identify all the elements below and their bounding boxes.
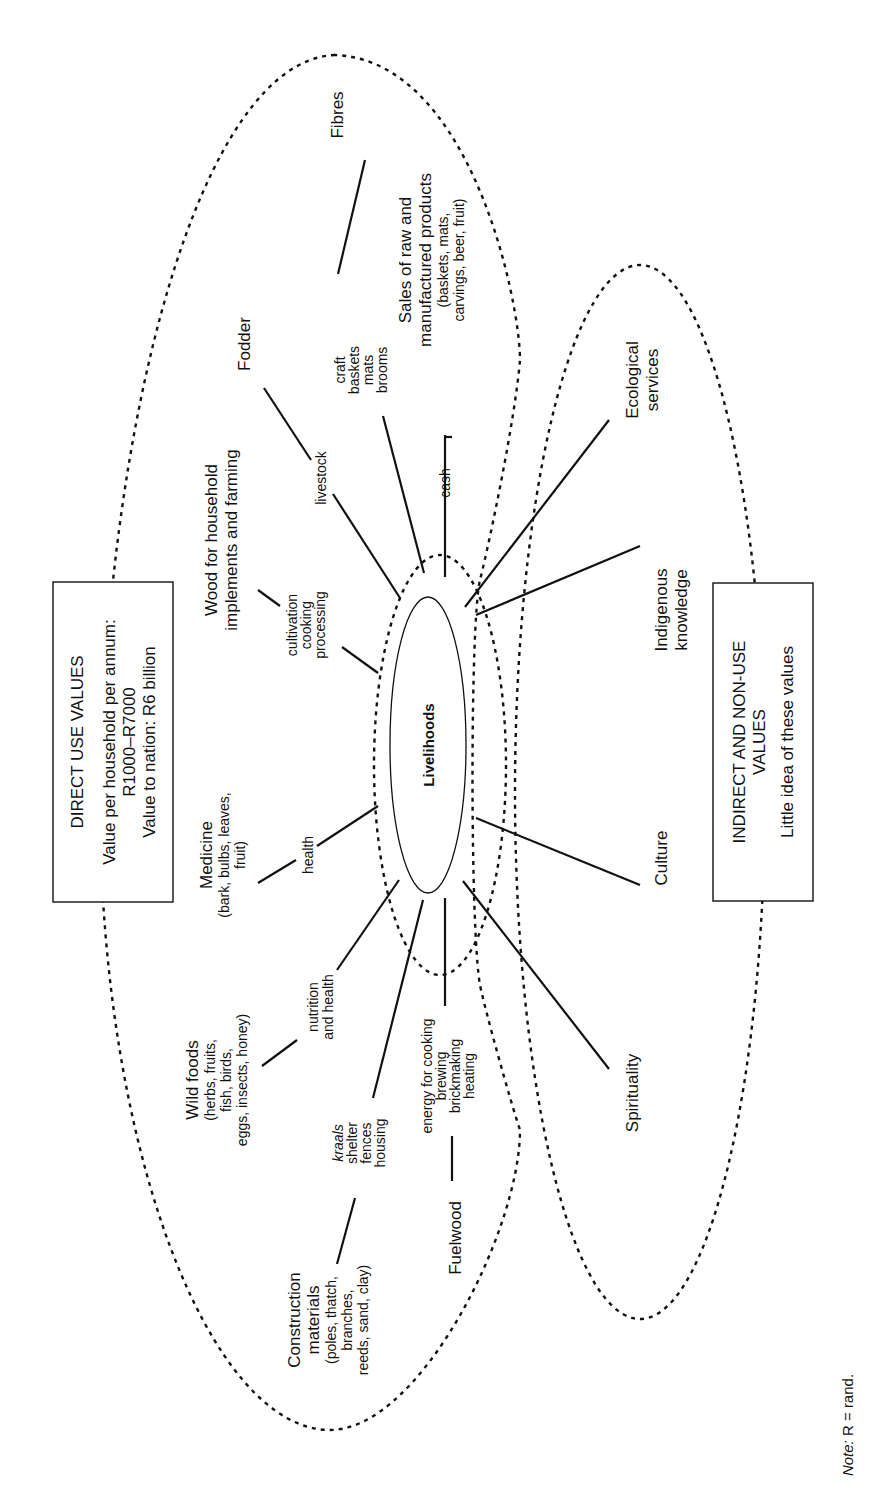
ecological-services-label: Ecological services <box>623 341 662 419</box>
svg-text:Wood for household: Wood for household <box>202 464 221 616</box>
svg-text:and health: and health <box>320 974 336 1039</box>
svg-text:Fodder: Fodder <box>235 317 254 371</box>
svg-text:reeds, sand, clay): reeds, sand, clay) <box>355 1265 371 1376</box>
svg-text:Sales of raw and: Sales of raw and <box>396 197 415 324</box>
svg-text:Livelihoods: Livelihoods <box>420 703 437 786</box>
svg-text:fruit): fruit) <box>232 841 248 869</box>
medicine-label: Medicine (bark, bulbs, leaves, fruit) <box>197 792 248 917</box>
svg-text:(herbs, fruits,: (herbs, fruits, <box>202 1039 218 1121</box>
indirect-title-line1: INDIRECT AND NON-USE <box>730 641 749 844</box>
svg-text:(bark, bulbs, leaves,: (bark, bulbs, leaves, <box>216 792 232 917</box>
svg-text:services: services <box>643 349 662 411</box>
craft-label: craft baskets mats brooms <box>332 346 390 394</box>
wild-foods-label: Wild foods (herbs, fruits, fish, birds, … <box>183 1014 250 1146</box>
direct-use-line2: R1000–R7000 <box>120 687 139 797</box>
note-prefix: Note: <box>839 1440 856 1476</box>
svg-text:Note: R = rand.: Note: R = rand. <box>839 1374 856 1476</box>
cash-label: cash <box>437 468 453 498</box>
svg-text:implements and farming: implements and farming <box>222 449 241 630</box>
svg-text:Wild foods: Wild foods <box>183 1040 202 1119</box>
svg-text:nutrition: nutrition <box>305 982 321 1032</box>
livestock-label: livestock <box>313 450 329 505</box>
svg-text:Spirituality: Spirituality <box>623 1053 642 1132</box>
fodder-label: Fodder <box>235 317 254 371</box>
svg-text:fish, birds,: fish, birds, <box>218 1048 234 1112</box>
livelihoods-label: Livelihoods <box>420 703 437 786</box>
svg-text:(baskets, mats,: (baskets, mats, <box>435 213 451 308</box>
culture-label: Culture <box>652 831 671 886</box>
svg-text:livestock: livestock <box>313 450 329 505</box>
svg-text:Culture: Culture <box>652 831 671 886</box>
cultivation-label: cultivation cooking processing <box>284 591 328 659</box>
svg-text:manufactured products: manufactured products <box>416 173 435 347</box>
note: Note: R = rand. <box>839 1374 856 1476</box>
note-text: R = rand. <box>839 1374 856 1440</box>
nutrition-label: nutrition and health <box>305 974 336 1039</box>
fibres-label: Fibres <box>328 91 347 138</box>
svg-text:eggs, insects, honey): eggs, insects, honey) <box>234 1014 250 1146</box>
svg-text:housing: housing <box>372 1118 388 1167</box>
fuelwood-label: Fuelwood <box>446 1201 465 1275</box>
spirituality-label: Spirituality <box>623 1053 642 1132</box>
svg-text:Fibres: Fibres <box>328 91 347 138</box>
svg-text:Ecological: Ecological <box>623 341 642 419</box>
direct-use-title: DIRECT USE VALUES <box>68 655 87 828</box>
wood-label: Wood for household implements and farmin… <box>202 449 241 630</box>
svg-text:heating: heating <box>461 1053 477 1099</box>
svg-text:Medicine: Medicine <box>197 821 216 889</box>
direct-use-line3: Value to nation: R6 billion <box>140 646 159 838</box>
svg-text:Fuelwood: Fuelwood <box>446 1201 465 1275</box>
indirect-subtitle: Little idea of these values <box>778 646 797 838</box>
direct-use-box-text: DIRECT USE VALUES Value per household pe… <box>68 619 159 864</box>
svg-text:(poles, thatch,: (poles, thatch, <box>323 1276 339 1364</box>
indirect-title-line2: VALUES <box>750 709 769 775</box>
svg-text:branches,: branches, <box>339 1289 355 1350</box>
shelter-label: kraals shelter fences housing <box>330 1118 388 1167</box>
construction-label: Construction materials (poles, thatch, b… <box>285 1265 371 1376</box>
svg-text:brooms: brooms <box>374 347 390 394</box>
indigenous-knowledge-label: Indigenous knowledge <box>652 568 691 651</box>
health-label: health <box>300 836 316 874</box>
svg-text:processing: processing <box>312 591 328 659</box>
svg-text:Construction: Construction <box>285 1272 304 1367</box>
energy-label: energy for cooking brewing brickmaking h… <box>419 1018 477 1133</box>
sales-label: Sales of raw and manufactured products (… <box>396 173 467 347</box>
svg-text:knowledge: knowledge <box>672 569 691 650</box>
svg-text:materials: materials <box>304 1286 323 1355</box>
svg-text:carvings, beer, fruit): carvings, beer, fruit) <box>451 199 467 322</box>
direct-use-line1: Value per household per annum: <box>100 619 119 864</box>
svg-text:Indigenous: Indigenous <box>652 568 671 651</box>
svg-text:health: health <box>300 836 316 874</box>
livelihoods-diagram: DIRECT USE VALUES Value per household pe… <box>0 0 871 1490</box>
svg-text:cash: cash <box>437 468 453 498</box>
